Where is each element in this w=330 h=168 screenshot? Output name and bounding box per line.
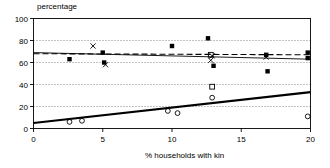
x-tick-label: 20 xyxy=(306,135,315,144)
y-tick-label: 40 xyxy=(19,81,28,90)
tick-marks-group xyxy=(30,19,311,133)
x-tick-label: 15 xyxy=(237,135,246,144)
series-fit-line xyxy=(34,92,311,123)
data-point-marker xyxy=(210,95,215,100)
data-point-marker xyxy=(175,111,180,116)
data-point-marker xyxy=(210,84,215,89)
gridlines-group xyxy=(34,19,311,107)
y-tick-label: 100 xyxy=(15,15,29,24)
data-point-marker xyxy=(67,57,71,61)
data-point-marker xyxy=(67,120,72,125)
x-tick-label: 5 xyxy=(101,135,106,144)
data-point-marker xyxy=(165,109,170,114)
data-point-marker xyxy=(208,58,213,63)
data-point-marker xyxy=(305,114,310,119)
data-point-marker xyxy=(90,43,95,48)
chart-plot-area: 02040608010005101520 xyxy=(0,0,330,168)
data-point-marker xyxy=(80,118,85,123)
y-tick-label: 20 xyxy=(19,103,28,112)
chart-container: percentage % households with kin 0204060… xyxy=(0,0,330,168)
data-point-marker xyxy=(170,44,174,48)
data-point-marker xyxy=(265,69,269,73)
data-point-marker xyxy=(264,53,268,57)
data-point-marker xyxy=(306,56,310,60)
y-tick-label: 80 xyxy=(19,37,28,46)
tick-labels-group: 02040608010005101520 xyxy=(15,15,316,144)
data-point-marker xyxy=(211,64,215,68)
x-tick-label: 10 xyxy=(168,135,177,144)
data-point-marker xyxy=(210,53,215,58)
series-markers-group xyxy=(67,36,310,124)
series-lines-group xyxy=(34,53,311,123)
data-point-marker xyxy=(306,50,310,54)
x-tick-label: 0 xyxy=(31,135,36,144)
data-point-marker xyxy=(101,50,105,54)
y-tick-label: 0 xyxy=(24,125,29,134)
y-tick-label: 60 xyxy=(19,59,28,68)
data-point-marker xyxy=(206,36,210,40)
